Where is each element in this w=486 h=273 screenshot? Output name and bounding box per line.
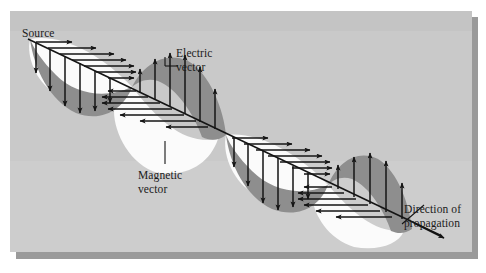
figure-root: Source Electric vector Magnetic vector D… [0, 0, 486, 273]
label-magnetic-vector: Magnetic vector [138, 169, 182, 196]
label-direction-of-propagation: Direction of propagation [404, 203, 461, 230]
label-source: Source [22, 27, 55, 41]
wave-illustration [10, 11, 472, 252]
illustration-panel: Source Electric vector Magnetic vector D… [10, 11, 472, 252]
label-electric-vector: Electric vector [176, 47, 213, 74]
